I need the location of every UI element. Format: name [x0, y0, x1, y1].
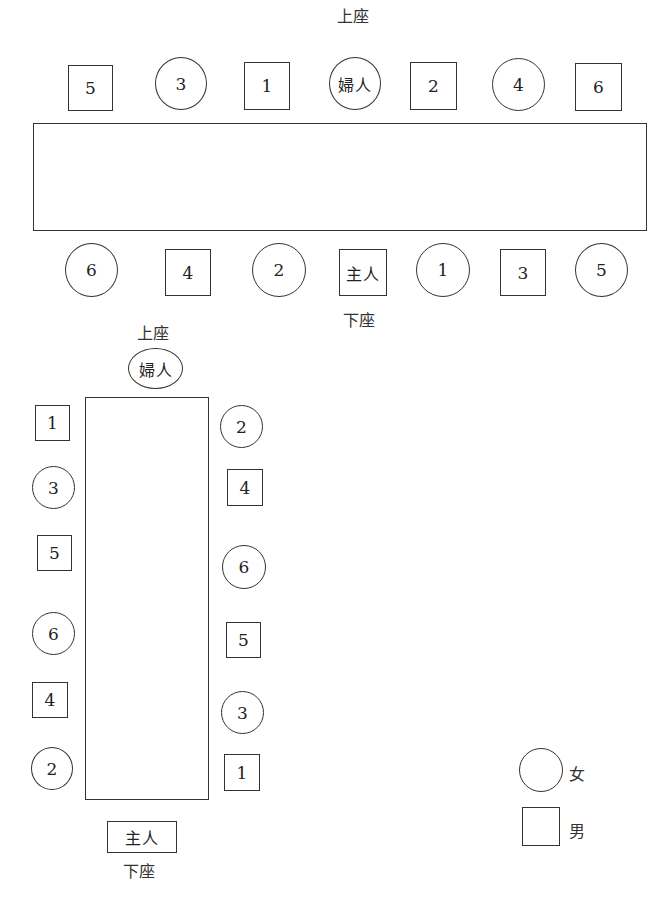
seat-top-2: 3: [155, 57, 207, 110]
seat-right-2: 4: [227, 469, 263, 506]
lower-seat-label-vertical: 下座: [123, 858, 155, 882]
upper-seat-label-vertical: 上座: [137, 320, 169, 344]
horizontal-table: [33, 123, 647, 231]
legend-circle-icon: [519, 748, 563, 792]
seat-right-6: 1: [224, 754, 260, 791]
hostess-seat-top: 婦人: [329, 57, 381, 110]
seat-right-3: 6: [222, 545, 266, 589]
seat-bottom-3: 2: [252, 243, 306, 297]
seat-top-7: 6: [575, 63, 622, 111]
seat-bottom-6: 3: [500, 249, 546, 296]
host-seat-bottom: 主人: [339, 249, 387, 296]
seat-bottom-5: 1: [416, 243, 470, 297]
seat-right-5: 3: [221, 691, 264, 734]
legend-female-label: 女: [569, 761, 585, 785]
seat-left-5: 4: [32, 682, 68, 718]
seat-left-2: 3: [32, 466, 75, 509]
seat-top-1: 5: [68, 65, 113, 111]
seat-bottom-7: 5: [575, 243, 628, 297]
seat-bottom-2: 4: [165, 249, 211, 296]
seat-bottom-1: 6: [65, 243, 118, 297]
upper-seat-label-top: 上座: [337, 3, 369, 27]
hostess-seat-vertical: 婦人: [128, 348, 183, 389]
seat-left-3: 5: [37, 535, 72, 571]
seat-top-6: 4: [492, 58, 545, 111]
legend-male-label: 男: [569, 818, 585, 842]
host-seat-vertical: 主人: [107, 821, 177, 853]
seat-left-4: 6: [32, 612, 75, 655]
seat-top-5: 2: [410, 62, 457, 110]
seat-right-4: 5: [226, 622, 261, 658]
seat-left-6: 2: [31, 747, 73, 790]
seat-right-1: 2: [220, 405, 263, 448]
legend-square-icon: [522, 807, 560, 846]
lower-seat-label-bottom: 下座: [343, 307, 375, 331]
seat-left-1: 1: [35, 405, 70, 441]
vertical-table: [85, 397, 209, 800]
seat-top-3: 1: [244, 62, 290, 110]
